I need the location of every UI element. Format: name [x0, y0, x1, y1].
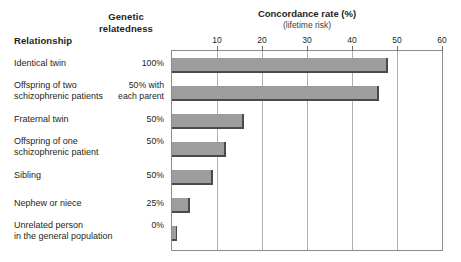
- x-axis-tick-label-40: 40: [347, 35, 356, 45]
- row-label-group: Sibling50%: [0, 163, 171, 191]
- gridline-50: [397, 51, 398, 250]
- row-label-group: Fraternal twin50%: [0, 107, 171, 135]
- row-label-column: Identical twin100%Offspring of twoschizo…: [0, 50, 171, 252]
- tick-mark-60: [442, 46, 443, 51]
- x-axis-tick-label-60: 60: [437, 35, 446, 45]
- chart-title: Concordance rate (%): [171, 8, 443, 20]
- genetic-relatedness-value: 0%: [104, 220, 164, 231]
- bar: [172, 226, 177, 241]
- x-axis-tick-label-20: 20: [257, 35, 266, 45]
- genetic-relatedness-value: 50%: [104, 170, 164, 181]
- genetic-relatedness-column-header: Genetic relatedness: [84, 11, 168, 34]
- bar: [172, 114, 244, 129]
- chart-title-block: Concordance rate (%) (lifetime risk): [171, 8, 443, 31]
- genetic-relatedness-value-line: 0%: [104, 220, 164, 231]
- tick-mark-40: [352, 46, 353, 51]
- tick-mark-30: [307, 46, 308, 51]
- genetic-relatedness-header-line1: Genetic: [84, 11, 168, 23]
- tick-mark-20: [262, 46, 263, 51]
- genetic-relatedness-value-line: 25%: [104, 198, 164, 209]
- relationship-label-line: in the general population: [14, 231, 119, 242]
- genetic-relatedness-value: 50%: [104, 114, 164, 125]
- genetic-relatedness-value-line: 50%: [104, 114, 164, 125]
- bar: [172, 170, 213, 185]
- genetic-relatedness-value: 50%: [104, 136, 164, 147]
- x-axis-tick-label-30: 30: [302, 35, 311, 45]
- bar: [172, 142, 226, 157]
- bar: [172, 58, 388, 73]
- x-axis-tick-label-10: 10: [212, 35, 221, 45]
- genetic-relatedness-value: 25%: [104, 198, 164, 209]
- genetic-relatedness-value-line: 50% with: [104, 80, 164, 91]
- genetic-relatedness-value: 50% witheach parent: [104, 80, 164, 102]
- genetic-relatedness-value-line: 100%: [104, 58, 164, 69]
- gridline-40: [352, 51, 353, 250]
- row-label-group: Offspring of oneschizophrenic patient50%: [0, 135, 171, 163]
- concordance-rate-chart: Relationship Genetic relatedness Concord…: [0, 0, 461, 262]
- relationship-column-header: Relationship: [14, 35, 72, 46]
- row-label-group: Offspring of twoschizophrenic patients50…: [0, 79, 171, 107]
- x-axis-tick-label-50: 50: [392, 35, 401, 45]
- bar: [172, 198, 190, 213]
- genetic-relatedness-value-line: 50%: [104, 170, 164, 181]
- genetic-relatedness-value-line: 50%: [104, 136, 164, 147]
- tick-mark-50: [397, 46, 398, 51]
- plot-area: 102030405060: [171, 50, 443, 251]
- genetic-relatedness-header-line2: relatedness: [84, 23, 168, 35]
- gridline-20: [262, 51, 263, 250]
- relationship-label-line: schizophrenic patient: [14, 147, 119, 158]
- chart-subtitle: (lifetime risk): [171, 20, 443, 31]
- bar: [172, 86, 379, 101]
- row-label-group: Identical twin100%: [0, 51, 171, 79]
- row-label-group: Unrelated personin the general populatio…: [0, 219, 171, 247]
- row-label-group: Nephew or niece25%: [0, 191, 171, 219]
- genetic-relatedness-value: 100%: [104, 58, 164, 69]
- tick-mark-10: [217, 46, 218, 51]
- gridline-30: [307, 51, 308, 250]
- genetic-relatedness-value-line: each parent: [104, 91, 164, 102]
